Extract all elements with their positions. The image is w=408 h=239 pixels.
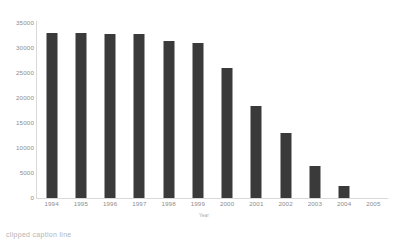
bar[interactable] [222, 68, 233, 198]
caption-text: clipped caption line [6, 231, 402, 238]
bar[interactable] [339, 186, 350, 199]
y-tick-label: 35000 [0, 20, 34, 26]
bar[interactable] [163, 41, 174, 199]
x-axis: 1994199519961997199819992000200120022003… [37, 201, 388, 213]
x-tick-label: 1994 [44, 201, 58, 207]
bar-slot [66, 18, 95, 198]
bar-slot [242, 18, 271, 198]
y-tick-label: 10000 [0, 145, 34, 151]
bar-slot [330, 18, 359, 198]
x-tick-label: 2001 [249, 201, 263, 207]
y-tick-label: 30000 [0, 45, 34, 51]
x-tick-label: 2005 [366, 201, 380, 207]
bar[interactable] [251, 106, 262, 199]
x-tick-label: 2004 [337, 201, 351, 207]
bar[interactable] [105, 34, 116, 198]
bar-slot [37, 18, 66, 198]
x-tick-label: 2003 [308, 201, 322, 207]
bar-slot [300, 18, 329, 198]
x-tick-label: 2000 [220, 201, 234, 207]
x-tick-label: 1999 [191, 201, 205, 207]
x-tick-label: 2002 [278, 201, 292, 207]
y-tick-label: 20000 [0, 95, 34, 101]
y-tick-label: 5000 [0, 170, 34, 176]
y-axis: 05000100001500020000250003000035000 [0, 0, 34, 239]
bar[interactable] [75, 33, 86, 198]
bar[interactable] [280, 133, 291, 198]
y-tick-label: 0 [0, 195, 34, 201]
bar-slot [154, 18, 183, 198]
bar[interactable] [46, 33, 57, 198]
bar-chart-figure: 05000100001500020000250003000035000 1994… [0, 0, 408, 239]
y-tick-label: 25000 [0, 70, 34, 76]
bar[interactable] [134, 34, 145, 198]
bar-series [37, 18, 388, 198]
caption-strip: clipped caption line [6, 231, 402, 239]
bar-slot [213, 18, 242, 198]
bar-slot [125, 18, 154, 198]
y-tick-label: 15000 [0, 120, 34, 126]
x-tick-label: 1997 [132, 201, 146, 207]
bar-slot [359, 18, 388, 198]
bar-slot [96, 18, 125, 198]
x-axis-line [36, 198, 388, 199]
x-axis-title: Year [0, 214, 408, 219]
x-tick-label: 1995 [74, 201, 88, 207]
bar[interactable] [309, 166, 320, 199]
x-tick-label: 1996 [103, 201, 117, 207]
bar-slot [271, 18, 300, 198]
bar-slot [183, 18, 212, 198]
x-tick-label: 1998 [161, 201, 175, 207]
bar[interactable] [192, 43, 203, 198]
